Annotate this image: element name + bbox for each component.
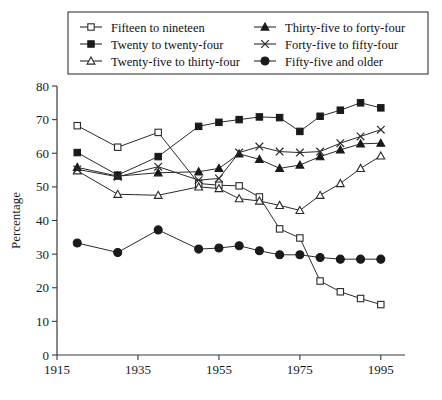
data-point bbox=[276, 226, 282, 232]
data-point bbox=[74, 122, 80, 128]
data-point bbox=[316, 253, 324, 261]
data-point bbox=[377, 152, 385, 159]
y-tick-label: 30 bbox=[36, 247, 49, 262]
y-tick-label: 0 bbox=[43, 348, 50, 363]
data-point bbox=[357, 100, 363, 106]
data-point bbox=[235, 242, 243, 250]
legend-label: Thirty-five to forty-four bbox=[285, 21, 406, 35]
data-point bbox=[337, 289, 343, 295]
data-point bbox=[296, 251, 304, 259]
y-tick-label: 70 bbox=[36, 112, 49, 127]
data-point bbox=[316, 191, 324, 198]
data-point bbox=[256, 143, 264, 151]
legend-label: Fifty-five and older bbox=[285, 55, 384, 69]
data-point bbox=[378, 105, 384, 111]
data-point bbox=[114, 190, 122, 197]
x-tick-label: 1915 bbox=[44, 362, 70, 377]
data-point bbox=[256, 114, 262, 120]
x-tick-label: 1975 bbox=[287, 362, 313, 377]
data-point bbox=[297, 235, 303, 241]
data-point bbox=[317, 278, 323, 284]
data-point bbox=[73, 239, 81, 247]
data-point bbox=[255, 247, 263, 255]
data-point bbox=[378, 301, 384, 307]
data-point bbox=[377, 139, 385, 146]
x-tick-label: 1935 bbox=[125, 362, 151, 377]
data-point bbox=[276, 251, 284, 259]
y-tick-label: 10 bbox=[36, 314, 49, 329]
data-point bbox=[236, 183, 242, 189]
data-point bbox=[377, 126, 385, 134]
data-point bbox=[155, 129, 161, 135]
y-tick-label: 20 bbox=[36, 280, 49, 295]
y-axis-title-group: Percentage bbox=[8, 192, 23, 249]
x-tick-label: 1955 bbox=[206, 362, 232, 377]
data-point bbox=[296, 161, 304, 168]
x-tick-label: 1995 bbox=[368, 362, 394, 377]
y-axis-title: Percentage bbox=[8, 192, 23, 249]
data-point bbox=[115, 144, 121, 150]
chart-series-group bbox=[73, 100, 385, 308]
data-point bbox=[195, 245, 203, 253]
data-point bbox=[195, 123, 201, 129]
data-point bbox=[235, 195, 243, 202]
series-line bbox=[77, 230, 381, 259]
series-line bbox=[77, 126, 381, 305]
legend-label: Twenty to twenty-four bbox=[111, 38, 224, 52]
data-point bbox=[276, 114, 282, 120]
legend-marker-open-square-icon bbox=[88, 24, 94, 30]
data-point bbox=[377, 255, 385, 263]
data-point bbox=[215, 244, 223, 252]
data-point bbox=[336, 255, 344, 263]
y-tick-label: 40 bbox=[36, 213, 49, 228]
legend-label: Fifteen to nineteen bbox=[111, 21, 205, 35]
data-point bbox=[114, 248, 122, 256]
legend-label: Forty-five to fifty-four bbox=[285, 38, 399, 52]
series-line bbox=[77, 143, 381, 176]
line-chart: Fifteen to nineteenThirty-five to forty-… bbox=[0, 0, 442, 400]
series-1 bbox=[74, 100, 384, 179]
y-tick-label: 50 bbox=[36, 179, 49, 194]
y-tick-label: 80 bbox=[36, 79, 49, 94]
legend-label: Twenty-five to thirty-four bbox=[111, 55, 241, 69]
data-point bbox=[297, 128, 303, 134]
data-point bbox=[154, 226, 162, 234]
data-point bbox=[357, 255, 365, 263]
legend-marker-filled-square-icon bbox=[88, 41, 94, 47]
series-5 bbox=[73, 226, 385, 263]
legend-marker-filled-circle-icon bbox=[261, 57, 269, 65]
data-point bbox=[357, 295, 363, 301]
series-line bbox=[77, 103, 381, 175]
data-point bbox=[155, 153, 161, 159]
data-point bbox=[317, 113, 323, 119]
y-tick-label: 60 bbox=[36, 146, 49, 161]
data-point bbox=[357, 164, 365, 171]
data-point bbox=[336, 180, 344, 187]
chart-figure: Fifteen to nineteenThirty-five to forty-… bbox=[0, 0, 442, 400]
data-point bbox=[236, 116, 242, 122]
data-point bbox=[215, 164, 223, 171]
data-point bbox=[74, 149, 80, 155]
chart-legend: Fifteen to nineteenThirty-five to forty-… bbox=[68, 12, 428, 74]
data-point bbox=[337, 107, 343, 113]
data-point bbox=[216, 119, 222, 125]
series-line bbox=[77, 156, 381, 210]
